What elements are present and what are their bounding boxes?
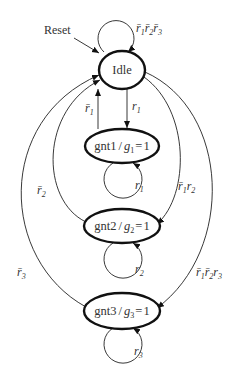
- idle-self-loop-label: r̄1r̄2r̄3: [136, 21, 162, 37]
- label-r1bar-r2: r̄1r2: [178, 179, 195, 195]
- reset-label: Reset: [44, 23, 71, 37]
- label-r2-bar: r̄2: [37, 183, 46, 199]
- gnt2-self-loop-label: r2: [135, 262, 144, 278]
- transition-gnt3-self: r3: [104, 328, 143, 363]
- transition-gnt2-self: r2: [104, 243, 144, 278]
- transition-idle-self: r̄1r̄2r̄3: [98, 21, 162, 52]
- reset-arrow: [74, 38, 99, 53]
- transition-gnt1-self: r1: [104, 163, 144, 198]
- state-gnt2-label: gnt2/g2=1: [94, 219, 149, 235]
- reset-transition: Reset: [44, 23, 99, 53]
- state-gnt3-label: gnt3/g3=1: [94, 304, 149, 320]
- transition-idle-to-gnt1: r1: [127, 88, 141, 128]
- idle-self-loop-arrow: [98, 21, 134, 52]
- state-idle: Idle: [99, 51, 145, 89]
- state-gnt2: gnt2/g2=1: [84, 209, 160, 243]
- label-r1bar-r2bar-r3: r̄1r̄2r3: [196, 265, 222, 281]
- label-r1-bar: r̄1: [85, 101, 94, 117]
- state-gnt3: gnt3/g3=1: [84, 293, 160, 329]
- state-diagram: Reset r̄1r̄2r̄3 r̄1 r1 r1 r2 r3 r̄2: [0, 0, 240, 383]
- gnt3-self-loop-label: r3: [134, 344, 143, 360]
- label-r1: r1: [132, 99, 141, 115]
- state-gnt1-label: gnt1/g1=1: [94, 139, 149, 155]
- state-gnt1: gnt1/g1=1: [85, 129, 159, 163]
- label-r3-bar: r̄3: [17, 265, 26, 281]
- state-idle-label: Idle: [112, 63, 132, 77]
- transition-gnt1-to-idle: r̄1: [85, 89, 98, 129]
